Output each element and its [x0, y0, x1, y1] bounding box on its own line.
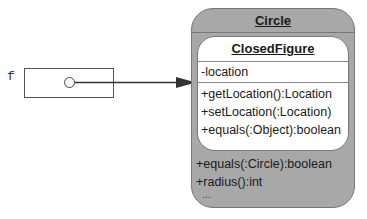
attribute-location: -location: [198, 62, 348, 83]
closedfigure-class-title: ClosedFigure: [198, 37, 348, 62]
closedfigure-operations: +getLocation():Location +setLocation(:Lo…: [198, 83, 348, 139]
operation-ellipsis: ...: [196, 191, 332, 199]
divider: [192, 32, 354, 33]
closedfigure-class-box: ClosedFigure -location +getLocation():Lo…: [197, 36, 349, 151]
operation-radius: +radius():int: [196, 173, 332, 191]
circle-class-box: Circle ClosedFigure -location +getLocati…: [191, 8, 355, 208]
operation-equals-circle: +equals(:Circle):boolean: [196, 155, 332, 173]
circle-class-title: Circle: [192, 9, 354, 32]
operation-equals-object: +equals(:Object):boolean: [201, 121, 348, 139]
operation-setlocation: +setLocation(:Location): [201, 103, 348, 121]
operation-getlocation: +getLocation():Location: [201, 85, 348, 103]
circle-operations: +equals(:Circle):boolean +radius():int .…: [196, 155, 332, 199]
